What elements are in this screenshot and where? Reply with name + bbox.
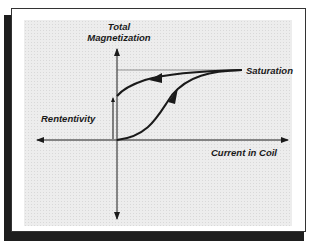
y-axis-label-line2: Magnetization <box>83 32 155 43</box>
curve-arrow-up-icon <box>168 88 178 104</box>
y-axis-label-line1: Total <box>83 21 155 32</box>
x-axis-label: Current in Coil <box>211 147 277 158</box>
saturation-label: Saturation <box>246 65 293 76</box>
retentivity-label: Rententivity <box>41 113 95 124</box>
initial-magnetization-curve <box>117 70 242 140</box>
diagram-figure: Total Magnetization Rententivity Saturat… <box>0 0 317 247</box>
y-axis-label: Total Magnetization <box>83 21 155 43</box>
demagnetization-curve <box>117 70 242 96</box>
